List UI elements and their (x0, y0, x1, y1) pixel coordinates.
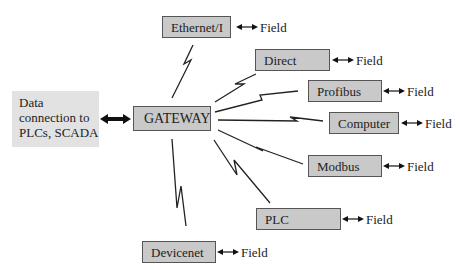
node-label: PLC (265, 213, 289, 226)
node-label: Direct (264, 54, 296, 67)
field-label: Field (425, 117, 452, 130)
data-connection-box: Data connection to PLCs, SCADA (12, 91, 99, 147)
field-label: Field (260, 21, 287, 34)
node-label: Profibus (317, 85, 361, 98)
link-modbus (218, 130, 303, 164)
field-profibus: Field (383, 84, 434, 98)
node-label: Modbus (317, 160, 360, 173)
link-direct (215, 74, 256, 102)
bidirectional-arrow-icon (342, 215, 364, 223)
gateway-label: GATEWAY (144, 112, 210, 126)
field-plc: Field (342, 212, 393, 226)
bidirectional-arrow-icon (332, 56, 354, 64)
field-label: Field (366, 213, 393, 226)
link-ethernet (172, 45, 193, 98)
bidirectional-arrow-icon (236, 23, 258, 31)
node-profibus: Profibus (308, 80, 382, 102)
node-label: Devicenet (151, 246, 204, 259)
node-computer: Computer (329, 112, 399, 134)
node-label: Ethernet/I (171, 21, 223, 34)
field-label: Field (407, 160, 434, 173)
data-connection-line-2: connection to (19, 110, 99, 125)
field-label: Field (241, 246, 268, 259)
double-arrow-icon (100, 114, 131, 124)
bidirectional-arrow-icon (217, 248, 239, 256)
bidirectional-arrow-icon (383, 162, 405, 170)
field-label: Field (407, 85, 434, 98)
field-modbus: Field (383, 159, 434, 173)
data-connection-line-1: Data (19, 95, 99, 110)
node-direct: Direct (255, 49, 330, 71)
field-label: Field (356, 54, 383, 67)
field-direct: Field (332, 53, 383, 67)
field-ethernet: Field (236, 20, 287, 34)
data-connection-line-3: PLCs, SCADA (19, 125, 99, 140)
node-plc: PLC (256, 208, 341, 230)
node-label: Computer (338, 117, 390, 130)
node-devicenet: Devicenet (142, 241, 216, 263)
bidirectional-arrow-icon (383, 87, 405, 95)
node-ethernet: Ethernet/I (162, 16, 231, 38)
link-computer (218, 117, 323, 121)
link-devicenet (172, 139, 186, 226)
field-computer: Field (401, 116, 452, 130)
node-modbus: Modbus (308, 155, 382, 177)
gateway-box: GATEWAY (133, 106, 211, 131)
bidirectional-arrow-icon (401, 119, 423, 127)
field-devicenet: Field (217, 245, 268, 259)
